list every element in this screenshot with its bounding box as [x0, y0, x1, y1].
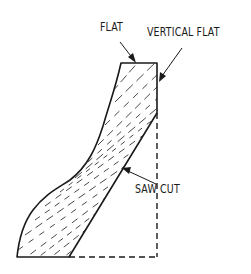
flat-label: FLAT — [100, 22, 123, 34]
vertical-flat-label: VERTICAL FLAT — [147, 27, 220, 39]
vertical-flat-arrow-icon — [159, 48, 182, 82]
saw-cut-label: SAW CUT — [135, 184, 180, 196]
wood-outline — [17, 63, 157, 257]
wood-section-diagram — [0, 0, 251, 274]
flat-arrow-icon — [120, 42, 136, 63]
grain-hatching — [18, 58, 162, 262]
